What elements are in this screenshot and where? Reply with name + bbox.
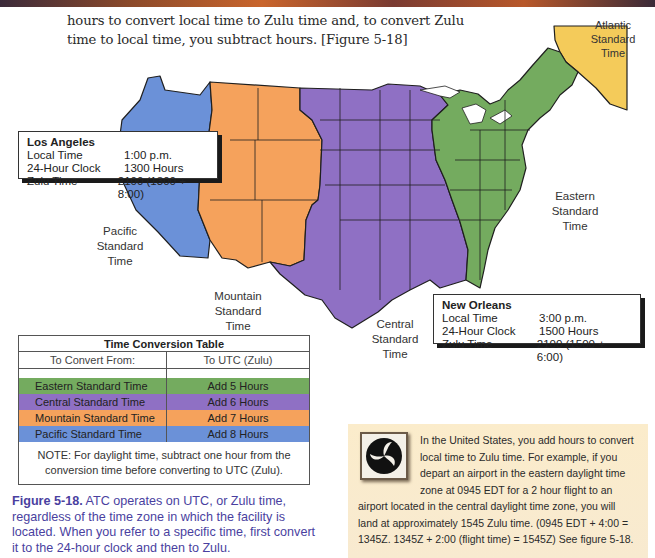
label-line: Standard (90, 239, 150, 254)
eastern-zone-label: Eastern Standard Time (545, 189, 605, 234)
label-line: Time (365, 347, 425, 362)
city-name: New Orleans (442, 299, 632, 312)
column-header: To Convert From: (19, 352, 167, 368)
atlantic-zone-label: Atlantic Standard Time (578, 18, 648, 60)
figure-caption: Figure 5-18. ATC operates on UTC, or Zul… (12, 494, 322, 556)
zone-cell: Pacific Standard Time (19, 426, 167, 442)
callout-row: Zulu Time 2100 (1500 + 6:00) (442, 338, 632, 364)
time-conversion-table: Time Conversion Table To Convert From: T… (18, 335, 310, 485)
row-value: 3:00 p.m. (539, 312, 587, 325)
label-line: Standard (203, 304, 273, 319)
row-value: 1500 Hours (539, 325, 598, 338)
central-zone-label: Central Standard Time (365, 317, 425, 362)
table-title: Time Conversion Table (19, 336, 309, 352)
figure-label: Figure 5-18. (12, 494, 83, 508)
table-row-mountain: Mountain Standard Time Add 7 Hours (19, 410, 309, 426)
row-label: 24-Hour Clock (27, 162, 124, 175)
city-name: Los Angeles (27, 136, 209, 149)
zone-cell: Central Standard Time (19, 394, 167, 410)
row-label: 24-Hour Clock (442, 325, 539, 338)
row-value: 2100 (1300 + 8:00) (118, 175, 209, 201)
sidebar-note-box: In the United States, you add hours to c… (348, 424, 648, 558)
row-label: Local Time (442, 312, 539, 325)
callout-row: 24-Hour Clock 1300 Hours (27, 162, 209, 175)
column-header: To UTC (Zulu) (167, 352, 309, 368)
row-label: Zulu Time (442, 338, 537, 364)
zone-cell: Mountain Standard Time (19, 410, 167, 426)
label-line: Time (203, 319, 273, 334)
row-label: Local Time (27, 149, 124, 162)
label-line: Time (90, 254, 150, 269)
table-note: NOTE: For daylight time, subtract one ho… (19, 442, 309, 484)
label-line: Pacific (90, 224, 150, 239)
table-row-central: Central Standard Time Add 6 Hours (19, 394, 309, 410)
callout-row: Local Time 1:00 p.m. (27, 149, 209, 162)
label-line: Standard (578, 32, 648, 46)
label-line: Time (545, 219, 605, 234)
label-line: Time (578, 46, 648, 60)
dot-triskelion-icon (360, 432, 408, 480)
new-orleans-callout: New Orleans Local Time 3:00 p.m. 24-Hour… (433, 294, 641, 344)
offset-cell: Add 8 Hours (167, 426, 309, 442)
row-label: Zulu Time (27, 175, 118, 201)
label-line: Central (365, 317, 425, 332)
offset-cell: Add 7 Hours (167, 410, 309, 426)
table-row-eastern: Eastern Standard Time Add 5 Hours (19, 378, 309, 394)
table-spacer (19, 369, 309, 378)
label-line: Atlantic (578, 18, 648, 32)
callout-row: 24-Hour Clock 1500 Hours (442, 325, 632, 338)
label-line: Mountain (203, 289, 273, 304)
pacific-zone-label: Pacific Standard Time (90, 224, 150, 269)
label-line: Standard (365, 332, 425, 347)
row-value: 2100 (1500 + 6:00) (537, 338, 632, 364)
mountain-zone-label: Mountain Standard Time (203, 289, 273, 334)
offset-cell: Add 5 Hours (167, 378, 309, 394)
label-line: Eastern (545, 189, 605, 204)
row-value: 1:00 p.m. (124, 149, 172, 162)
callout-row: Zulu Time 2100 (1300 + 8:00) (27, 175, 209, 201)
row-value: 1300 Hours (124, 162, 183, 175)
callout-row: Local Time 3:00 p.m. (442, 312, 632, 325)
offset-cell: Add 6 Hours (167, 394, 309, 410)
table-header-row: To Convert From: To UTC (Zulu) (19, 352, 309, 369)
table-row-pacific: Pacific Standard Time Add 8 Hours (19, 426, 309, 442)
label-line: Standard (545, 204, 605, 219)
zone-cell: Eastern Standard Time (19, 378, 167, 394)
los-angeles-callout: Los Angeles Local Time 1:00 p.m. 24-Hour… (18, 131, 218, 179)
